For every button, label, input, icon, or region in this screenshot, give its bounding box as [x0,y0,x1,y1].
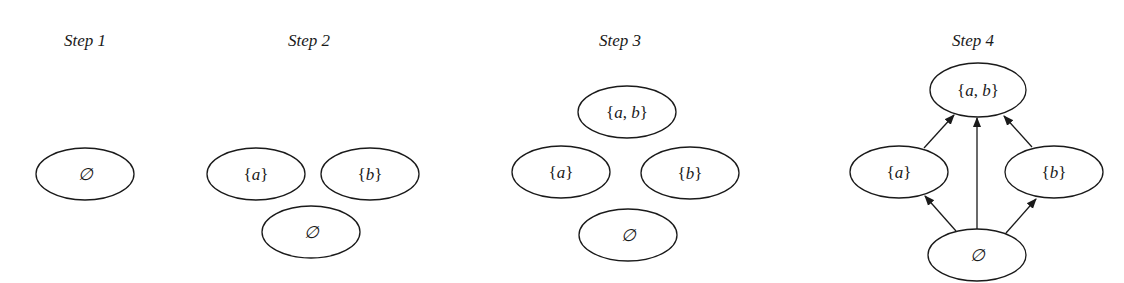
edge-a-to-ab [924,115,954,148]
step-2-group: Step 2{a}{b}∅ [207,31,419,258]
node-ab: {a, b} [578,86,676,138]
step-title: Step 4 [952,31,995,50]
edge-b-to-ab [1004,116,1032,147]
node-empty: ∅ [36,148,134,200]
step-4-group: Step 4{a, b}{a}{b}∅ [850,31,1103,281]
step-title: Step 2 [288,31,331,50]
node-label: {b} [358,165,383,184]
node-label: ∅ [78,165,94,184]
node-label: ∅ [621,226,637,245]
node-empty: ∅ [262,206,360,258]
diagram-canvas: Step 1∅Step 2{a}{b}∅Step 3{a, b}{a}{b}∅S… [0,0,1124,283]
node-label: {a} [887,163,912,182]
edge-empty-to-b [1006,199,1036,233]
node-b: {b} [1005,146,1103,198]
step-3-group: Step 3{a, b}{a}{b}∅ [512,31,739,261]
node-b: {b} [321,148,419,200]
step-title: Step 1 [64,31,106,50]
node-a: {a} [512,146,610,198]
edge-empty-to-a [925,196,956,231]
node-label: {a} [244,165,269,184]
lattice-construction-diagram: Step 1∅Step 2{a}{b}∅Step 3{a, b}{a}{b}∅S… [0,0,1124,283]
node-ab: {a, b} [930,63,1026,117]
node-empty: ∅ [928,229,1026,281]
node-a: {a} [207,148,305,200]
node-label: {a, b} [606,103,648,122]
node-label: ∅ [970,246,986,265]
node-label: {b} [678,164,703,183]
step-1-group: Step 1∅ [36,31,134,200]
node-label: {b} [1042,163,1067,182]
node-empty: ∅ [579,209,677,261]
node-b: {b} [641,147,739,199]
node-label: ∅ [304,223,320,242]
step-title: Step 3 [599,31,641,50]
node-a: {a} [850,146,948,198]
node-label: {a} [549,163,574,182]
node-label: {a, b} [957,81,999,100]
